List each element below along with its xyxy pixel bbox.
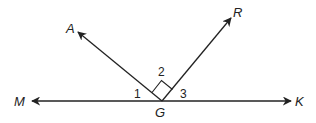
label-point-k: K [295,94,305,109]
label-point-a: A [65,21,75,36]
ray-gr [162,18,231,101]
label-angle-2: 2 [158,65,165,79]
label-angle-3: 3 [180,87,187,101]
angle-diagram: A R M K G 1 2 3 [0,0,316,123]
label-point-r: R [233,5,242,20]
label-point-m: M [14,94,25,109]
label-angle-1: 1 [134,87,141,101]
label-point-g: G [155,105,165,120]
right-angle-marker [152,81,173,93]
ray-ga [78,32,162,101]
